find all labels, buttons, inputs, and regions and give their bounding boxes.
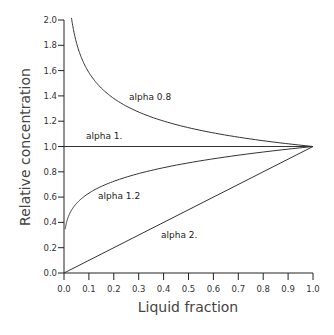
x-tick-label: 0.7 — [232, 284, 246, 294]
y-axis-title: Relative concentration — [17, 68, 33, 226]
x-tick-label: 0.5 — [182, 284, 196, 294]
x-tick-label: 0.9 — [281, 284, 295, 294]
y-tick-label: 1.0 — [43, 142, 57, 152]
series-alpha-1-2 — [65, 147, 313, 230]
y-tick-label: 0.6 — [43, 192, 57, 202]
series-alpha-2 — [64, 147, 313, 274]
x-tick-label: 0.3 — [132, 284, 146, 294]
x-tick-label: 0.6 — [207, 284, 221, 294]
x-axis-ticks: 0.00.10.20.30.40.50.60.70.80.91.0 — [57, 273, 320, 294]
y-tick-label: 0.0 — [43, 268, 57, 278]
rayleigh-fractionation-chart: 0.00.20.40.60.81.01.21.41.61.82.0 0.00.1… — [0, 0, 334, 335]
y-tick-label: 1.8 — [43, 40, 57, 50]
y-tick-label: 0.2 — [43, 243, 57, 253]
x-tick-label: 0.0 — [57, 284, 71, 294]
x-tick-label: 1.0 — [306, 284, 320, 294]
y-tick-label: 1.6 — [43, 66, 57, 76]
y-tick-label: 1.4 — [43, 91, 57, 101]
x-tick-label: 0.1 — [82, 284, 96, 294]
y-tick-label: 1.2 — [43, 116, 57, 126]
x-tick-label: 0.8 — [256, 284, 270, 294]
x-tick-label: 0.4 — [157, 284, 171, 294]
x-axis-title: Liquid fraction — [138, 299, 238, 315]
y-axis-ticks: 0.00.20.40.60.81.01.21.41.61.82.0 — [43, 15, 64, 278]
series-alpha-0-8 — [71, 18, 313, 147]
x-tick-label: 0.2 — [107, 284, 121, 294]
label-alpha-1: alpha 1. — [86, 131, 122, 141]
y-tick-label: 0.8 — [43, 167, 57, 177]
y-tick-label: 2.0 — [43, 15, 57, 25]
label-alpha-0.8: alpha 0.8 — [129, 92, 171, 102]
y-tick-label: 0.4 — [43, 217, 57, 227]
label-alpha-1.2: alpha 1.2 — [98, 191, 140, 201]
label-alpha-2: alpha 2. — [161, 230, 197, 240]
